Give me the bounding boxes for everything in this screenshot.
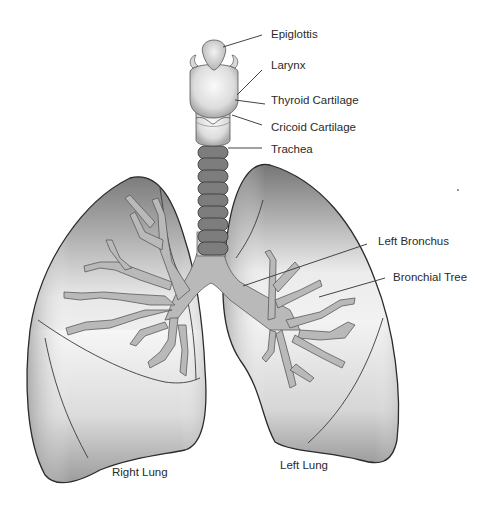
- label-left-bronchus: Left Bronchus: [378, 235, 449, 247]
- label-epiglottis: Epiglottis: [271, 28, 318, 40]
- right-lung: [0, 160, 220, 500]
- label-left-lung: Left Lung: [280, 459, 328, 471]
- label-larynx: Larynx: [271, 59, 306, 71]
- label-bronchial-tree: Bronchial Tree: [393, 271, 467, 283]
- trachea: [197, 146, 228, 256]
- larynx: [190, 40, 238, 146]
- label-thyroid-cartilage: Thyroid Cartilage: [271, 94, 359, 106]
- label-cricoid-cartilage: Cricoid Cartilage: [271, 121, 356, 133]
- label-trachea: Trachea: [271, 143, 313, 155]
- speck-mark: [457, 189, 459, 191]
- lung-anatomy-diagram: Epiglottis Larynx Thyroid Cartilage Cric…: [0, 0, 493, 505]
- label-right-lung: Right Lung: [112, 466, 168, 478]
